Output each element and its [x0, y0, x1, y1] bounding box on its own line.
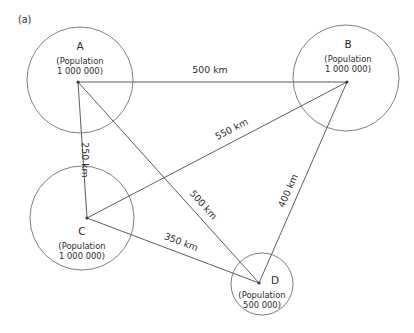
node-label-b-population-line1: (Population — [324, 54, 371, 64]
node-label-a-population-line1: (Population — [56, 56, 103, 66]
node-label-c-population-line2: 1 000 000) — [59, 251, 105, 261]
edge-labels-group: 500 km 250 km 550 km 500 km 350 km 400 k… — [80, 64, 300, 253]
node-label-d-population-line2: 500 000) — [243, 300, 281, 310]
panel-label: (a) — [18, 14, 31, 25]
vertex-dot-a — [76, 80, 79, 83]
edge-label-d-b: 400 km — [276, 172, 300, 209]
network-diagram: A (Population 1 000 000) B (Population 1… — [0, 0, 414, 333]
edge-label-a-c: 250 km — [80, 142, 91, 177]
node-label-a-population-line2: 1 000 000) — [57, 66, 103, 76]
node-label-c-letter: C — [78, 225, 85, 237]
edge-d-b — [259, 82, 347, 283]
edge-label-c-b: 550 km — [213, 116, 250, 142]
node-label-b-population-line2: 1 000 000) — [325, 64, 371, 74]
vertex-dot-c — [85, 216, 88, 219]
edge-label-a-b: 500 km — [192, 64, 227, 75]
node-label-d-letter: D — [271, 274, 279, 286]
vertex-dot-d — [257, 281, 260, 284]
edge-label-c-d: 350 km — [163, 230, 200, 253]
vertex-dot-b — [345, 80, 348, 83]
node-label-c-population-line1: (Population — [58, 241, 105, 251]
node-label-d-population-line1: (Population — [238, 290, 285, 300]
vertex-dots-group — [76, 80, 348, 284]
edge-c-b — [87, 82, 347, 218]
edges-group — [78, 82, 347, 283]
diagram-canvas: A (Population 1 000 000) B (Population 1… — [0, 0, 414, 333]
node-label-b-letter: B — [344, 38, 351, 50]
node-labels-group: A (Population 1 000 000) B (Population 1… — [56, 38, 371, 310]
edge-a-d — [78, 82, 259, 283]
node-label-a-letter: A — [76, 40, 84, 52]
edge-label-a-d: 500 km — [188, 188, 220, 222]
